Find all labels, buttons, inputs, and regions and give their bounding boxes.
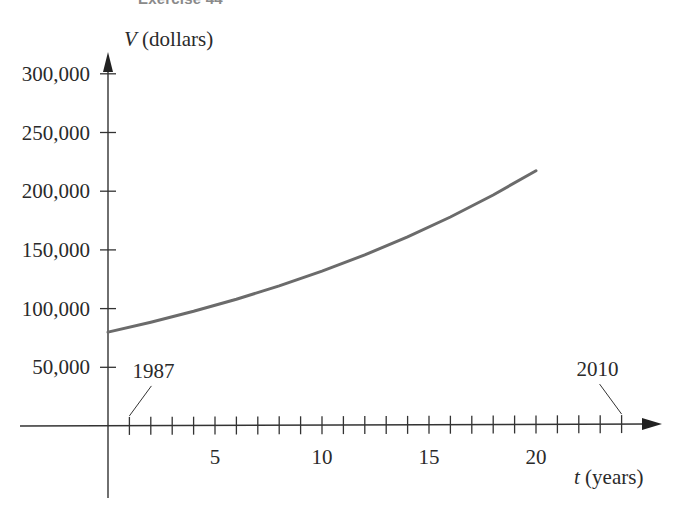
x-tick-label: 10 xyxy=(312,445,333,469)
x-tick-label: 5 xyxy=(210,445,221,469)
x-tick-label: 20 xyxy=(526,445,547,469)
data-series-line xyxy=(108,171,536,332)
x-axis-arrow-icon xyxy=(642,418,662,430)
y-axis-label: V (dollars) xyxy=(124,27,213,51)
annotation-leader xyxy=(600,384,622,414)
x-axis xyxy=(20,424,648,426)
y-axis-arrow-icon xyxy=(103,52,113,72)
annotation-label: 1987 xyxy=(132,359,174,383)
y-tick-label: 300,000 xyxy=(22,62,90,86)
y-tick-label: 200,000 xyxy=(22,179,90,203)
x-axis-label: t (years) xyxy=(574,465,643,489)
annotation-leader xyxy=(129,386,151,416)
y-tick-label: 100,000 xyxy=(22,297,90,321)
y-tick-label: 50,000 xyxy=(32,355,90,379)
x-tick-label: 15 xyxy=(419,445,440,469)
y-tick-label: 150,000 xyxy=(22,238,90,262)
y-tick-label: 250,000 xyxy=(22,121,90,145)
annotation-label: 2010 xyxy=(577,357,619,381)
line-chart: V (dollars)t (years)50,000100,000150,000… xyxy=(0,0,673,514)
